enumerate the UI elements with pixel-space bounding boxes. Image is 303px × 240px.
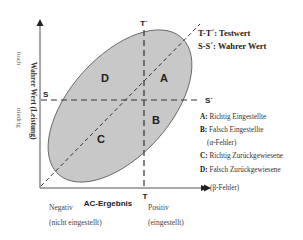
t-prime-label: T´ <box>140 19 148 28</box>
t-label: T <box>143 192 148 201</box>
legend-alpha-error: (α-Fehler) <box>207 139 236 147</box>
legend-text: Falsch Zurückgewiesene <box>208 166 281 174</box>
legend-beta-error: (β-Fehler) <box>210 184 239 192</box>
region-b-label: B <box>152 114 160 126</box>
y-axis-arrow-icon <box>37 19 44 26</box>
legend-letter: C: <box>200 152 208 160</box>
y-axis-high-label: hoch <box>15 52 23 66</box>
x-negative-sublabel: (nicht eingestellt) <box>49 218 102 227</box>
key-testwert: T-T´: Testwert <box>198 28 250 38</box>
y-axis-title: Wahrer Wert (Leistung) <box>29 62 38 140</box>
legend-text: Falsch Eingestellte <box>207 126 263 134</box>
legend-letter: D: <box>200 166 208 174</box>
legend-text: (α-Fehler) <box>207 139 236 147</box>
legend-item-d: D: Falsch Zurückgewiesene <box>200 166 281 174</box>
x-negative-label: Negativ <box>49 203 73 212</box>
selection-validity-diagram: D A B C T´ T S S´ Wahrer Wert (Leistung)… <box>0 0 303 240</box>
legend-item-b: B: Falsch Eingestellte <box>200 126 263 134</box>
region-a-label: A <box>160 72 168 84</box>
y-axis-low-label: niedrig <box>15 108 23 128</box>
x-axis-title: AC-Ergebnis <box>84 199 133 208</box>
legend-item-c: C: Richtig Zurückgewiesene <box>200 152 283 160</box>
x-positive-label: Positiv <box>148 203 169 212</box>
x-positive-sublabel: (eingestellt) <box>148 218 184 227</box>
region-c-label: C <box>97 133 105 145</box>
key-wahrer-wert: S-S´: Wahrer Wert <box>198 41 266 51</box>
s-prime-label: S´ <box>205 96 213 105</box>
legend-letter: A: <box>200 113 208 121</box>
region-d-label: D <box>101 72 109 84</box>
legend-text: (β-Fehler) <box>210 184 239 192</box>
s-label: S <box>43 90 49 99</box>
legend-text: Richtig Zurückgewiesene <box>208 152 283 160</box>
legend-item-a: A: Richtig Eingestellte <box>200 113 266 121</box>
legend-text: Richtig Eingestellte <box>208 113 267 121</box>
